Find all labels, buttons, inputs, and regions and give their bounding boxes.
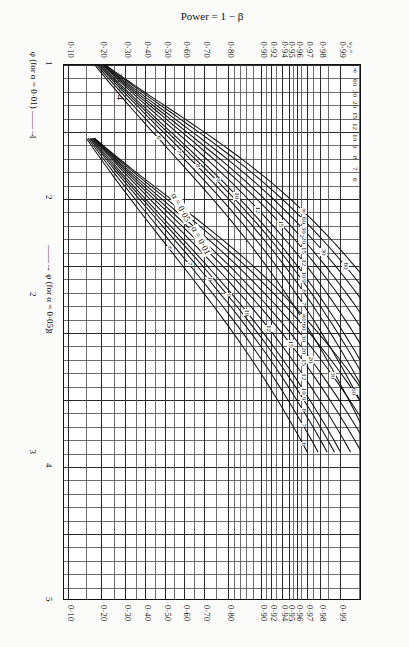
nu2-header: ν2 = — [345, 42, 354, 54]
x-axis-label-alpha-001: φ (for α = 0·01) ——→ — [29, 51, 39, 137]
curve-a005-label-nu2-15: 15 — [276, 220, 283, 228]
power-tick-0.40: 0·40 — [143, 24, 153, 58]
plot-area — [63, 64, 361, 600]
power-tick-0.90: 0·90 — [259, 24, 269, 58]
curve-a001-label-nu2-6: 6 — [165, 245, 172, 249]
power-tick-0.97: 0·97 — [304, 605, 314, 621]
curve-a005-label-nu2-6: 6 — [155, 135, 162, 139]
x-axis-label-alpha-005: ——→ φ (for α = 0·05) — [45, 244, 55, 330]
power-tick-0.94: 0·94 — [280, 605, 290, 621]
curve-a001-hi-label-nu2-inf: ∞ — [300, 313, 307, 319]
curve-a001-label-nu2-30: 30 — [329, 371, 336, 379]
power-tick-0.98: 0·98 — [317, 24, 327, 58]
power-tick-0.30: 0·30 — [123, 24, 133, 58]
power-tick-0.10: 0·10 — [65, 605, 75, 621]
power-tick-0.20: 0·20 — [99, 24, 109, 58]
curve-a005-label-nu2-9: 9 — [213, 177, 220, 181]
power-tick-0.99: 0·99 — [338, 605, 348, 621]
curve-a001-hi-label-nu2-7: 7 — [300, 423, 307, 427]
curve-a005-hi-label-nu2-15: 15 — [300, 246, 307, 254]
curve-a001-hi-label-nu2-10: 10 — [300, 387, 307, 395]
nu2-edge-label-inf: ∞ — [351, 68, 359, 73]
power-tick-0.92: 0·92 — [268, 605, 278, 621]
power-tick-0.94: 0·94 — [280, 24, 290, 58]
power-tick-0.97: 0·97 — [304, 24, 314, 58]
phi-tick-a005-5: 5 — [44, 597, 54, 602]
curve-a005-label-nu2-7: 7 — [174, 149, 181, 153]
phi-tick-a001-2: 2 — [28, 292, 38, 297]
power-tick-0.60: 0·60 — [181, 605, 191, 621]
nu2-edge-label-6: 6 — [351, 178, 359, 182]
nu2-edge-label-8: 8 — [351, 156, 359, 160]
curve-a001-label-nu2-15: 15 — [286, 340, 293, 348]
power-tick-0.92: 0·92 — [268, 24, 278, 58]
curve-a001-hi-label-nu2-12: 12 — [300, 373, 307, 381]
curve-a001-label-nu2-7: 7 — [185, 261, 192, 265]
curve-a005-hi-label-nu2-12: 12 — [300, 259, 307, 267]
curve-a005-hi-label-nu2-9: 9 — [300, 279, 307, 283]
nu2-edge-label-15: 15 — [351, 112, 359, 119]
power-tick-0.40: 0·40 — [143, 605, 153, 621]
power-tick-0.20: 0·20 — [99, 605, 109, 621]
curve-a005-hi-label-nu2-8: 8 — [300, 288, 307, 292]
chart-title: ν1 = 4 — [111, 74, 126, 100]
curve-a005-hi-label-nu2-20: 20 — [300, 236, 307, 244]
nu2-edge-label-12: 12 — [351, 123, 359, 130]
curve-a001-label-nu2-60: 60 — [350, 387, 357, 395]
curve-a001-hi-label-nu2-15: 15 — [300, 358, 307, 366]
curve-a001-hi-label-nu2-8: 8 — [300, 408, 307, 412]
curve-a005-label-nu2-12: 12 — [254, 206, 261, 214]
nu2-edge-label-30: 30 — [351, 90, 359, 97]
power-tick-0.50: 0·50 — [162, 24, 172, 58]
curve-a001-hi-label-nu2-20: 20 — [300, 347, 307, 355]
rotated-figure-wrapper: 0·990·980·970·960·950·940·920·900·800·70… — [11, 20, 399, 628]
nu2-edge-label-9: 9 — [351, 145, 359, 149]
curve-group-alpha-005 — [94, 65, 359, 599]
y-axis-label: Power = 1 − β — [180, 10, 243, 22]
phi-tick-a005-4: 4 — [44, 463, 54, 468]
nu2-edge-label-60: 60 — [351, 79, 359, 86]
curve-a005-label-nu2-30: 30 — [320, 248, 327, 256]
curve-a005-hi-label-nu2-7: 7 — [300, 301, 307, 305]
curve-a005-label-nu2-10: 10 — [232, 192, 239, 200]
power-tick-0.80: 0·80 — [226, 605, 236, 621]
power-chart-figure: 0·990·980·970·960·950·940·920·900·800·70… — [11, 20, 399, 628]
nu2-edge-label-7: 7 — [351, 167, 359, 171]
curve-a001-hi-label-nu2-60: 60 — [300, 323, 307, 331]
curve-a001-hi-label-nu2-30: 30 — [300, 334, 307, 342]
curve-a001-hi-label-nu2-9: 9 — [300, 396, 307, 400]
power-tick-0.60: 0·60 — [181, 24, 191, 58]
curve-a005-hi-label-nu2-60: 60 — [300, 216, 307, 224]
curve-a005-hi-label-nu2-30: 30 — [300, 226, 307, 234]
curve-a001-label-nu2-8: 8 — [205, 277, 212, 281]
power-tick-0.10: 0·10 — [65, 24, 75, 58]
power-tick-0.98: 0·98 — [317, 605, 327, 621]
power-tick-0.70: 0·70 — [202, 24, 212, 58]
phi-tick-a005-2: 2 — [44, 195, 54, 200]
curve-a005-label-nu2-8: 8 — [194, 163, 201, 167]
power-tick-0.90: 0·90 — [259, 605, 269, 621]
curve-a001-label-nu2-9: 9 — [224, 293, 231, 297]
nu2-edge-label-10: 10 — [351, 134, 359, 141]
curve-a005-hi-label-nu2-inf: ∞ — [300, 208, 307, 214]
phi-tick-a005-1: 1 — [44, 61, 54, 66]
power-tick-0.30: 0·30 — [123, 605, 133, 621]
curve-a005-label-nu2-60: 60 — [342, 262, 349, 270]
power-tick-0.70: 0·70 — [202, 605, 212, 621]
curve-alpha-005-nu2-7 — [96, 65, 359, 599]
phi-tick-a001-3: 3 — [28, 449, 38, 454]
power-curves — [64, 65, 360, 599]
curve-a005-hi-label-nu2-10: 10 — [300, 271, 307, 279]
power-tick-0.50: 0·50 — [162, 605, 172, 621]
nu2-edge-label-20: 20 — [351, 101, 359, 108]
curve-a001-label-nu2-10: 10 — [243, 308, 250, 316]
curve-alpha-005-nu2-6 — [94, 65, 359, 599]
figure-page: 0·990·980·970·960·950·940·920·900·800·70… — [0, 0, 409, 647]
power-tick-0.80: 0·80 — [226, 24, 236, 58]
curve-a001-hi-label-nu2-6: 6 — [300, 442, 307, 446]
curve-a001-label-nu2-12: 12 — [264, 324, 271, 332]
